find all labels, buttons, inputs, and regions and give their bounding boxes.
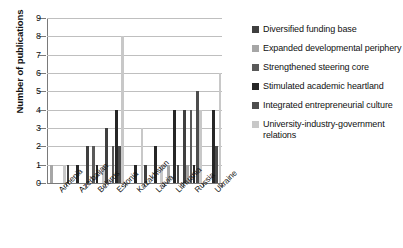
bar-group [203,18,222,183]
legend-label: University-industry-government relations [263,119,403,140]
bar [183,110,186,183]
legend-swatch-icon [252,121,259,128]
bar-group [125,18,144,183]
legend-label: Strengthened steering core [263,62,369,73]
legend-swatch-icon [252,45,259,52]
legend-item: University-industry-government relations [252,119,403,140]
legend-label: Expanded developmental periphery [263,43,401,54]
legend-item: Integrated entrepreneurial culture [252,100,403,111]
y-axis-label: 8 [27,32,41,41]
bar-group [183,18,202,183]
y-axis-label: 4 [27,105,41,114]
legend-label: Integrated entrepreneurial culture [263,100,393,111]
y-axis-label: 0 [27,179,41,188]
bar-group [144,18,163,183]
bar [50,165,53,183]
legend-item: Expanded developmental periphery [252,43,403,54]
bar [219,73,222,183]
bar [212,110,215,183]
legend-item: Stimulated academic heartland [252,81,403,92]
bar-group [105,18,124,183]
bar-group [47,18,66,183]
y-axis-label: 1 [27,160,41,169]
legend-swatch-icon [252,83,259,90]
bar [141,128,144,183]
y-axis-label: 2 [27,142,41,151]
legend-swatch-icon [252,26,259,33]
legend-swatch-icon [252,64,259,71]
legend-swatch-icon [252,102,259,109]
legend-label: Diversified funding base [263,24,357,35]
legend-item: Diversified funding base [252,24,403,35]
y-axis-title: Number of publications [14,0,25,137]
bar-group [164,18,183,183]
y-axis-label: 7 [27,50,41,59]
y-axis-label: 6 [27,69,41,78]
bar [177,165,180,183]
legend-item: Strengthened steering core [252,62,403,73]
bar-chart: Number of publications Diversified fundi… [0,0,403,248]
y-axis-label: 5 [27,87,41,96]
chart-legend: Diversified funding baseExpanded develop… [252,24,403,149]
bar [173,110,176,183]
bar [121,36,124,183]
bar-group [66,18,85,183]
plot-area [47,18,222,183]
bar-group [86,18,105,183]
y-axis-label: 3 [27,124,41,133]
legend-label: Stimulated academic heartland [263,81,384,92]
y-axis-label: 9 [27,14,41,23]
